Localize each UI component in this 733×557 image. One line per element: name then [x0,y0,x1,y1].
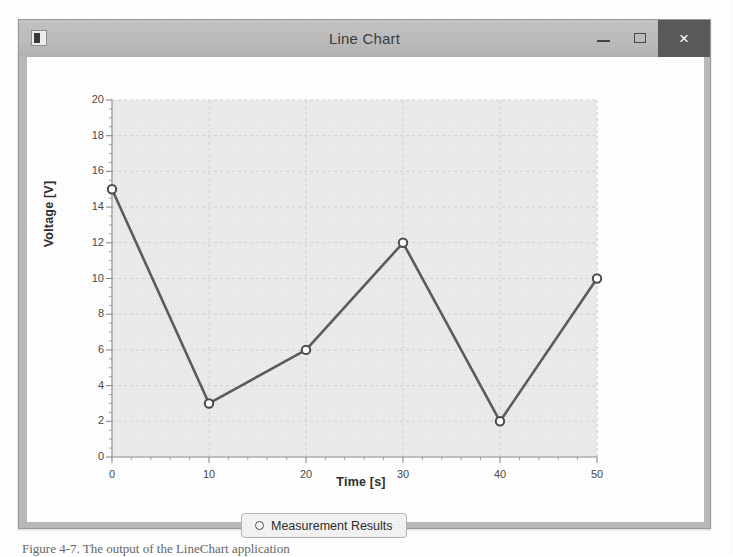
y-tick-label: 18 [78,129,104,141]
x-tick-label: 30 [388,468,418,480]
y-tick-label: 4 [78,379,104,391]
maximize-button[interactable] [622,20,658,57]
close-button[interactable]: × [658,20,710,57]
close-icon: × [658,20,710,57]
window-title-bar[interactable]: Line Chart × [19,20,710,57]
x-tick-label: 20 [291,468,321,480]
chart-legend[interactable]: Measurement Results [241,513,407,538]
line-chart: Voltage [V] Time [s] 0246810121416182001… [27,57,704,522]
application-window: Line Chart × Voltage [V] Time [s] 024681… [18,19,711,529]
y-tick-label: 8 [78,307,104,319]
y-tick-label: 6 [78,343,104,355]
x-tick-label: 50 [582,468,612,480]
y-tick-label: 20 [78,93,104,105]
y-tick-label: 16 [78,164,104,176]
y-tick-label: 2 [78,414,104,426]
y-tick-label: 14 [78,200,104,212]
x-tick-label: 0 [97,468,127,480]
y-tick-label: 10 [78,272,104,284]
figure-caption: Figure 4-7. The output of the LineChart … [22,541,712,557]
x-tick-label: 10 [194,468,224,480]
plot-canvas [27,57,704,522]
x-tick-label: 40 [485,468,515,480]
window-controls: × [586,20,710,57]
minimize-button[interactable] [586,20,622,57]
y-tick-label: 12 [78,236,104,248]
circle-marker-icon [255,521,264,530]
y-tick-label: 0 [78,450,104,462]
window-client-area: Voltage [V] Time [s] 0246810121416182001… [27,57,704,522]
legend-label: Measurement Results [271,519,393,533]
